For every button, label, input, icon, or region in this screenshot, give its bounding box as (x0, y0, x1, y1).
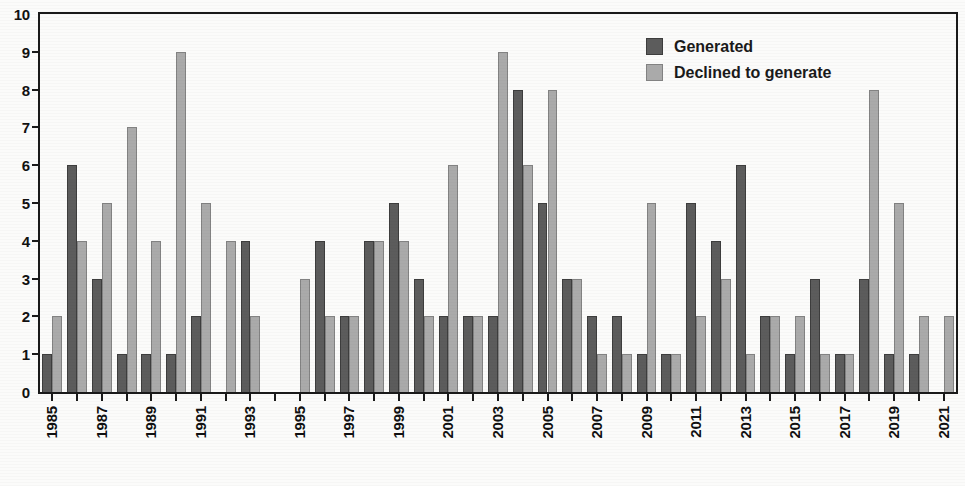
bar-generated[interactable] (241, 241, 251, 392)
bar-declined[interactable] (349, 316, 359, 392)
bar-declined[interactable] (201, 203, 211, 392)
bar-declined[interactable] (77, 241, 87, 392)
bar-declined[interactable] (374, 241, 384, 392)
bar-generated[interactable] (463, 316, 473, 392)
bar-generated[interactable] (686, 203, 696, 392)
bar-generated[interactable] (389, 203, 399, 392)
bar-declined[interactable] (572, 279, 582, 392)
bar-declined[interactable] (102, 203, 112, 392)
x-tick-mark (893, 394, 895, 401)
bar-group (906, 14, 931, 392)
bar-declined[interactable] (127, 127, 137, 392)
bar-generated[interactable] (42, 354, 52, 392)
bar-generated[interactable] (117, 354, 127, 392)
x-tick-label: 2009 (639, 406, 654, 439)
bar-generated[interactable] (191, 316, 201, 392)
bar-group (882, 14, 907, 392)
bar-declined[interactable] (498, 52, 508, 392)
bar-group (238, 14, 263, 392)
bar-declined[interactable] (795, 316, 805, 392)
bar-declined[interactable] (399, 241, 409, 392)
bar-generated[interactable] (612, 316, 622, 392)
legend-item-generated[interactable]: Generated (646, 38, 831, 55)
bar-declined[interactable] (424, 316, 434, 392)
bar-declined[interactable] (473, 316, 483, 392)
bar-generated[interactable] (835, 354, 845, 392)
bar-declined[interactable] (820, 354, 830, 392)
bar-declined[interactable] (523, 165, 533, 392)
bar-generated[interactable] (562, 279, 572, 392)
bar-generated[interactable] (67, 165, 77, 392)
x-tick-mark (423, 394, 425, 401)
bar-group (560, 14, 585, 392)
bar-group (362, 14, 387, 392)
bar-group (312, 14, 337, 392)
bar-generated[interactable] (315, 241, 325, 392)
x-tick-label: 2001 (440, 406, 455, 439)
bar-generated[interactable] (909, 354, 919, 392)
x-tick-label: 1995 (292, 406, 307, 439)
bar-declined[interactable] (696, 316, 706, 392)
bar-generated[interactable] (736, 165, 746, 392)
bar-group (263, 14, 288, 392)
bar-generated[interactable] (587, 316, 597, 392)
y-tick-label: 2 (22, 309, 30, 324)
bar-declined[interactable] (151, 241, 161, 392)
bar-declined[interactable] (597, 354, 607, 392)
bar-generated[interactable] (760, 316, 770, 392)
bar-declined[interactable] (845, 354, 855, 392)
bar-generated[interactable] (488, 316, 498, 392)
bar-generated[interactable] (92, 279, 102, 392)
bar-declined[interactable] (622, 354, 632, 392)
x-tick-label: 2011 (688, 406, 703, 438)
bar-declined[interactable] (944, 316, 954, 392)
bar-declined[interactable] (300, 279, 310, 392)
bar-declined[interactable] (548, 90, 558, 392)
x-tick-label: 1997 (341, 406, 356, 439)
x-tick-label: 2005 (540, 406, 555, 439)
bar-generated[interactable] (513, 90, 523, 392)
bar-generated[interactable] (711, 241, 721, 392)
x-tick-label: 2003 (490, 406, 505, 439)
bar-generated[interactable] (538, 203, 548, 392)
bar-generated[interactable] (661, 354, 671, 392)
bar-generated[interactable] (166, 354, 176, 392)
bar-declined[interactable] (770, 316, 780, 392)
bar-generated[interactable] (414, 279, 424, 392)
bar-generated[interactable] (810, 279, 820, 392)
x-tick-label: 1987 (94, 406, 109, 439)
bar-generated[interactable] (884, 354, 894, 392)
bar-generated[interactable] (141, 354, 151, 392)
bar-declined[interactable] (721, 279, 731, 392)
bar-generated[interactable] (637, 354, 647, 392)
legend-item-declined[interactable]: Declined to generate (646, 64, 831, 81)
legend-swatch-generated-icon (646, 38, 663, 55)
bar-declined[interactable] (226, 241, 236, 392)
x-tick-mark (670, 394, 672, 401)
bar-declined[interactable] (647, 203, 657, 392)
bar-group (90, 14, 115, 392)
bar-group (585, 14, 610, 392)
bar-declined[interactable] (919, 316, 929, 392)
bar-group (337, 14, 362, 392)
bar-declined[interactable] (671, 354, 681, 392)
bar-declined[interactable] (746, 354, 756, 392)
bar-declined[interactable] (176, 52, 186, 392)
x-tick-mark (819, 394, 821, 401)
bar-generated[interactable] (859, 279, 869, 392)
x-tick-mark (621, 394, 623, 401)
bar-generated[interactable] (439, 316, 449, 392)
x-tick-mark (745, 394, 747, 401)
bar-declined[interactable] (52, 316, 62, 392)
bar-declined[interactable] (325, 316, 335, 392)
bar-generated[interactable] (364, 241, 374, 392)
bar-declined[interactable] (250, 316, 260, 392)
bar-generated[interactable] (340, 316, 350, 392)
bar-declined[interactable] (894, 203, 904, 392)
bar-declined[interactable] (448, 165, 458, 392)
x-tick-label: 1985 (44, 406, 59, 439)
x-tick-mark (943, 394, 945, 401)
bar-generated[interactable] (785, 354, 795, 392)
bar-group (461, 14, 486, 392)
bar-declined[interactable] (869, 90, 879, 392)
